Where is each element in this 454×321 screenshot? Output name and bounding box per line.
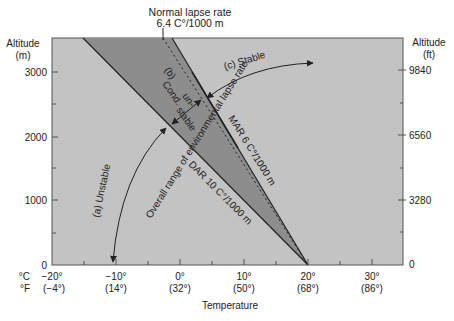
right-axis-title: Altitude — [412, 37, 446, 48]
unit-celsius: °C — [19, 271, 30, 282]
x-tick-c-4: 20° — [300, 271, 315, 282]
x-tick-c-5: 30° — [364, 271, 379, 282]
left-tick-0: 0 — [41, 260, 47, 271]
x-tick-f-4: (68°) — [297, 283, 319, 294]
unit-fahrenheit: °F — [20, 283, 30, 294]
normal-lapse-value: 6.4 C°/1000 m — [156, 17, 223, 29]
left-tick-3000: 3000 — [25, 67, 48, 78]
x-tick-f-5: (86°) — [361, 283, 383, 294]
lapse-rate-diagram: Normal lapse rate 6.4 C°/1000 m Altitude… — [0, 0, 454, 321]
right-tick-9840: 9840 — [409, 65, 432, 76]
right-tick-6560: 6560 — [409, 130, 432, 141]
x-tick-c-1: −10° — [106, 271, 127, 282]
x-tick-f-2: (32°) — [169, 283, 191, 294]
left-tick-1000: 1000 — [25, 195, 48, 206]
left-axis-unit: (m) — [16, 50, 31, 61]
left-axis-title: Altitude — [6, 38, 40, 49]
x-tick-f-0: (−4°) — [43, 283, 65, 294]
x-axis-title: Temperature — [202, 300, 259, 311]
right-tick-0: 0 — [409, 259, 415, 270]
left-tick-2000: 2000 — [25, 132, 48, 143]
x-tick-c-2: 0° — [175, 271, 185, 282]
right-tick-3280: 3280 — [409, 195, 432, 206]
x-tick-c-3: 10° — [236, 271, 251, 282]
right-axis-unit: (ft) — [423, 49, 435, 60]
x-tick-c-0: −20° — [42, 271, 63, 282]
x-tick-f-1: (14°) — [105, 283, 127, 294]
x-tick-f-3: (50°) — [233, 283, 255, 294]
